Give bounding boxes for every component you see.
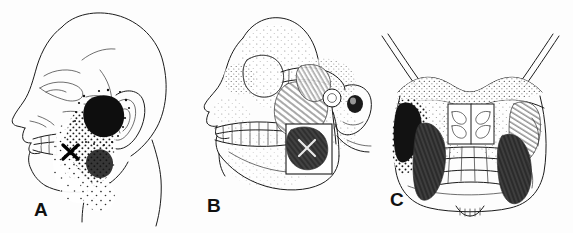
panel-a: A bbox=[0, 0, 191, 233]
zygomatic-arch-pair bbox=[382, 34, 559, 86]
mandibular-symphysis bbox=[456, 206, 484, 217]
panel-b: B bbox=[185, 0, 380, 233]
deep-masseter-window bbox=[286, 124, 332, 174]
panel-label-b: B bbox=[207, 195, 221, 216]
anatomical-figure: A bbox=[0, 0, 573, 233]
panel-c: C bbox=[368, 0, 573, 233]
nasal-turbinates bbox=[448, 104, 494, 144]
figure-caption bbox=[4, 223, 564, 232]
panel-label-c: C bbox=[390, 189, 404, 210]
panel-label-a: A bbox=[34, 199, 48, 220]
